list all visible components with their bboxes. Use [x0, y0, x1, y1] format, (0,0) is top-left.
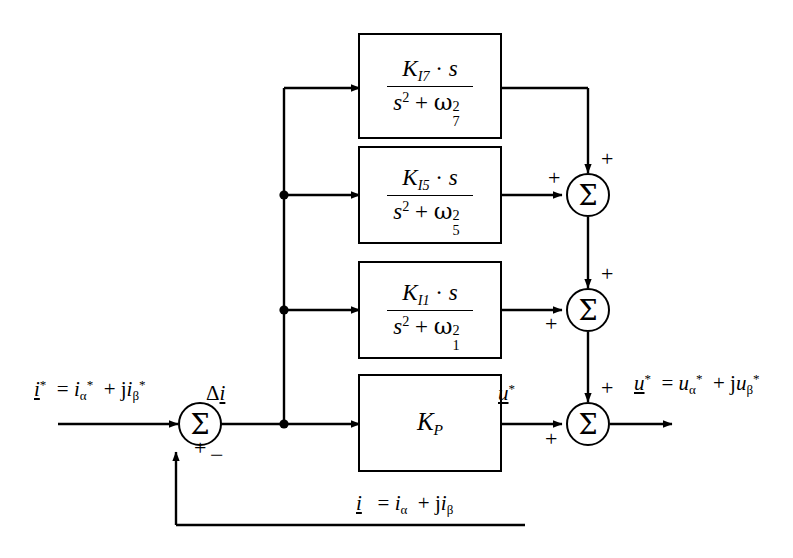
- resonant-7th-transfer-function: KI7 · s s2 + ω27: [387, 56, 473, 116]
- junction-dot-kp: [279, 419, 288, 428]
- sigma-glyph: Σ: [578, 182, 597, 209]
- block-resonant-5th[interactable]: KI5 · s s2 + ω25: [358, 146, 502, 244]
- summer-5th-top-plus-sign: +: [601, 263, 613, 285]
- junction-dot-resonant-1st: [279, 305, 288, 314]
- summer-resonant-5th[interactable]: Σ: [566, 288, 610, 332]
- label-proportional-output: u*: [498, 382, 515, 405]
- sigma-glyph: Σ: [578, 297, 597, 324]
- label-error-signal: Δi: [206, 382, 225, 405]
- label-reference-input: i* = iα* + jiβ*: [34, 378, 146, 403]
- sigma-glyph: Σ: [578, 411, 597, 438]
- summer-error-minus-sign: −: [210, 443, 224, 467]
- block-diagram-canvas: KI7 · s s2 + ω27 KI5 · s s2 + ω25 KI1 · …: [0, 0, 793, 558]
- block-resonant-7th[interactable]: KI7 · s s2 + ω27: [358, 33, 502, 139]
- sigma-glyph: Σ: [190, 411, 209, 438]
- summer-7th-left-plus-sign: +: [548, 167, 560, 189]
- resonant-5th-transfer-function: KI5 · s s2 + ω25: [387, 165, 473, 225]
- block-proportional[interactable]: KP: [358, 374, 502, 472]
- junction-dot-resonant-5th: [279, 190, 288, 199]
- summer-5th-left-plus-sign: +: [545, 313, 557, 335]
- label-output-signal: u* = uα* + juβ*: [634, 372, 760, 397]
- summer-output-left-plus-sign: +: [545, 428, 557, 450]
- resonant-1st-transfer-function: KI1 · s s2 + ω21: [387, 280, 473, 340]
- summer-7th-top-plus-sign: +: [601, 148, 613, 170]
- block-resonant-1st[interactable]: KI1 · s s2 + ω21: [358, 261, 502, 359]
- proportional-gain-label: KP: [417, 408, 443, 439]
- label-feedback-signal: i = iα + jiβ: [356, 492, 453, 517]
- summer-output[interactable]: Σ: [566, 402, 610, 446]
- summer-error-plus-sign: +: [194, 437, 206, 459]
- summer-output-top-plus-sign: +: [601, 377, 613, 399]
- summer-resonant-7th[interactable]: Σ: [566, 173, 610, 217]
